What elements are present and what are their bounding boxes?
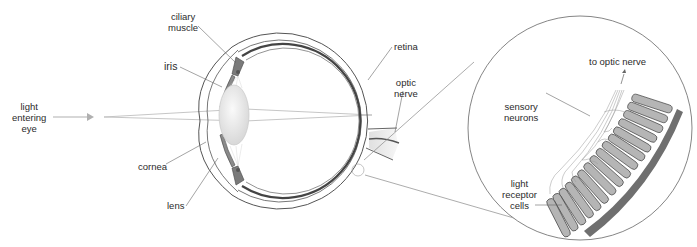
label-cornea: cornea (138, 161, 167, 172)
label-line: optic (394, 77, 418, 88)
label-line: light (12, 101, 46, 112)
label-light-entering-eye: light entering eye (12, 101, 46, 134)
label-line: cells (502, 200, 537, 211)
label-light-receptor-cells: light receptor cells (502, 178, 537, 211)
label-sensory-neurons: sensory neurons (504, 101, 538, 123)
label-line: nerve (394, 88, 418, 99)
label-optic-nerve: optic nerve (394, 77, 418, 99)
label-line: entering (12, 112, 46, 123)
label-line: neurons (504, 112, 538, 123)
label-ciliary-muscle: ciliary muscle (168, 11, 198, 33)
magnified-region-marker (352, 164, 364, 176)
label-line: sensory (504, 101, 538, 112)
light-arrow-icon (53, 113, 94, 121)
label-retina: retina (394, 41, 418, 52)
label-iris: iris (164, 61, 177, 72)
lens (219, 85, 249, 145)
label-line: eye (12, 123, 46, 134)
label-lens: lens (167, 200, 184, 211)
label-line: receptor (502, 189, 537, 200)
label-line: muscle (168, 22, 198, 33)
label-line: light (502, 178, 537, 189)
eye-diagram: light entering eye ciliary muscle iris c… (0, 0, 697, 247)
label-to-optic-nerve: to optic nerve (589, 56, 646, 67)
label-line: ciliary (168, 11, 198, 22)
